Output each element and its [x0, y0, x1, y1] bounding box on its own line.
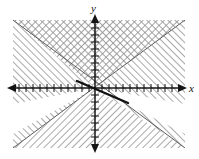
inequality-graph-figure: y x [0, 0, 199, 159]
x-axis-arrow-left [7, 84, 16, 92]
y-axis-arrow-up [91, 14, 99, 23]
plot-canvas: y x [0, 0, 199, 159]
x-axis-label: x [188, 82, 194, 94]
y-axis-label: y [90, 2, 96, 14]
y-axis-arrow-down [91, 144, 99, 153]
